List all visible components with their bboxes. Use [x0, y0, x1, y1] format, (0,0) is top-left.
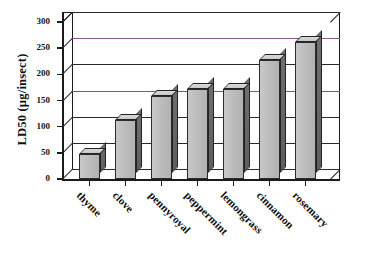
bar-thyme [79, 154, 100, 179]
bar-front-face [115, 120, 136, 179]
x-tick-label-clove: clove [111, 189, 137, 215]
bar-side-face [244, 77, 250, 173]
y-tick-label-200: 200 [10, 68, 50, 78]
bar-pennyroyal [151, 96, 172, 179]
y-tick-50 [57, 152, 63, 153]
bar-lemongrass [223, 89, 244, 179]
bar-cinnamon [259, 60, 280, 179]
bar-front-face [259, 60, 280, 179]
x-tick-thyme [89, 180, 90, 186]
y-tick-label-50: 50 [10, 147, 50, 157]
bar-chart-figure: LD50 (µg/insect) 050100150200250300 thym… [0, 0, 386, 261]
bar-side-face [208, 77, 214, 173]
y-tick-label-0: 0 [10, 173, 50, 183]
x-axis-line [62, 179, 340, 181]
bar-front-face [151, 96, 172, 179]
x-tick-lemongrass [233, 180, 234, 186]
bar-side-face [316, 30, 322, 173]
y-tick-200 [57, 74, 63, 75]
x-tick-cinnamon [269, 180, 270, 186]
y-tick-250 [57, 47, 63, 48]
x-tick-clove [125, 180, 126, 186]
bar-front-face [79, 154, 100, 179]
x-tick-pennyroyal [161, 180, 162, 186]
bar-front-face [187, 89, 208, 179]
bar-side-face [280, 48, 286, 173]
bar-clove [115, 120, 136, 179]
y-tick-label-300: 300 [10, 16, 50, 26]
bar-front-face [223, 89, 244, 179]
y-tick-0 [57, 178, 63, 179]
y-tick-300 [57, 21, 63, 22]
bar-rosemary [295, 42, 316, 179]
x-tick-rosemary [305, 180, 306, 186]
y-tick-label-150: 150 [10, 95, 50, 105]
plot-area [62, 22, 330, 179]
gridline-300 [72, 12, 340, 13]
x-tick-peppermint [197, 180, 198, 186]
back-wall-top-edge [62, 12, 330, 22]
x-tick-label-thyme: thyme [75, 189, 105, 219]
back-wall-right-edge [330, 12, 340, 179]
bar-side-face [100, 142, 106, 173]
bar-side-face [172, 84, 178, 173]
y-tick-label-250: 250 [10, 42, 50, 52]
bar-front-face [295, 42, 316, 179]
y-tick-150 [57, 100, 63, 101]
x-tick-label-rosemary: rosemary [291, 189, 331, 229]
bar-peppermint [187, 89, 208, 179]
y-tick-100 [57, 126, 63, 127]
y-tick-label-100: 100 [10, 121, 50, 131]
